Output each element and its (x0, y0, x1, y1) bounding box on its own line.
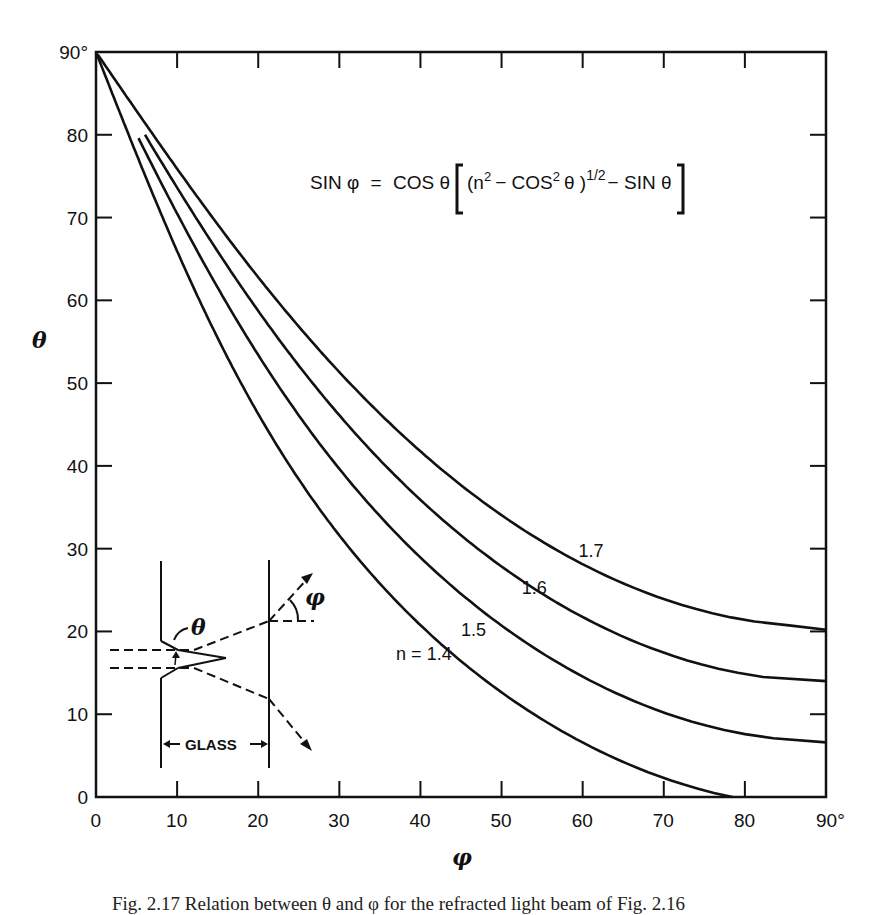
eq-left-bracket (457, 165, 463, 213)
equation: SIN φ = COS θ (n2− COS2θ )1/2− SIN θ (310, 165, 683, 213)
eq-cos-theta: COS θ (393, 172, 450, 193)
inset-glass-label: GLASS (185, 736, 237, 753)
x-tick-label: 30 (328, 810, 349, 831)
curve-label: 1.7 (579, 541, 604, 561)
curve-1-7 (98, 55, 826, 630)
y-tick-label: 0 (77, 787, 88, 808)
eq-sin-phi: SIN φ (310, 172, 359, 193)
curve-1-6 (145, 135, 826, 681)
eq-right-bracket (677, 165, 683, 213)
y-tick-label: 20 (67, 621, 88, 642)
x-tick-label: 10 (166, 810, 187, 831)
x-tick-label: 80 (734, 810, 755, 831)
svg-text:SIN φ = COS θ: SIN φ = COS θ (310, 172, 450, 193)
x-tick-label: 40 (409, 810, 430, 831)
x-tick-label: 60 (572, 810, 593, 831)
glass-ray-diagram-inset: θ φ GLASS (110, 560, 325, 768)
eq-equals: = (371, 172, 382, 193)
x-tick-label: 90° (816, 810, 845, 831)
inset-phi-label: φ (305, 584, 325, 610)
curve-label: 1.6 (522, 578, 547, 598)
axis-ticks: 0102030405060708090°0102030405060708090° (59, 42, 844, 831)
y-tick-label: 40 (67, 456, 88, 477)
y-tick-label: 80 (67, 125, 88, 146)
x-tick-label: 70 (653, 810, 674, 831)
curve-1-4 (96, 52, 732, 797)
curve-label: 1.5 (461, 620, 486, 640)
curve-label: n = 1.4 (396, 644, 452, 664)
x-tick-label: 50 (491, 810, 512, 831)
y-tick-label: 30 (67, 539, 88, 560)
curve-1-5 (139, 138, 827, 742)
y-axis-title: θ (32, 327, 47, 353)
y-tick-label: 50 (67, 373, 88, 394)
y-tick-label: 90° (59, 42, 88, 63)
x-tick-label: 0 (91, 810, 102, 831)
svg-text:(n2− COS2θ )1/2− SIN θ: (n2− COS2θ )1/2− SIN θ (467, 167, 672, 193)
y-tick-label: 70 (67, 208, 88, 229)
x-tick-label: 20 (247, 810, 268, 831)
inset-theta-label: θ (191, 614, 206, 640)
y-tick-label: 10 (67, 704, 88, 725)
x-axis-title: φ (452, 844, 472, 870)
y-tick-label: 60 (67, 290, 88, 311)
figure-caption: Fig. 2.17 Relation between θ and φ for t… (112, 893, 685, 915)
